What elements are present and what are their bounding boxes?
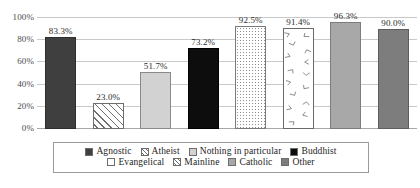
- legend-item-buddhist[interactable]: Buddhist: [290, 147, 336, 157]
- bar: [235, 26, 266, 129]
- legend-item-label: Nothing in particular: [200, 147, 282, 157]
- legend-row-1: AgnosticAtheistNothing in particularBudd…: [58, 147, 364, 157]
- legend-item-label: Buddhist: [301, 147, 336, 157]
- legend-item-other[interactable]: Other: [281, 158, 314, 168]
- bar-group-atheist: 23.0%: [93, 17, 124, 129]
- bar-value-label: 90.0%: [372, 18, 415, 28]
- bar: [188, 48, 219, 129]
- legend-item-agnostic[interactable]: Agnostic: [85, 147, 131, 157]
- bar-value-label: 96.3%: [324, 11, 367, 21]
- bar-value-label: 92.5%: [229, 15, 272, 25]
- legend-swatch-icon: [107, 158, 115, 166]
- y-tick-label: 40%: [17, 79, 34, 89]
- legend-item-nothing-in-particular[interactable]: Nothing in particular: [189, 147, 282, 157]
- bar: [93, 103, 124, 129]
- legend-item-label: Other: [292, 158, 314, 168]
- bar-value-label: 83.3%: [39, 26, 82, 36]
- legend-swatch-icon: [141, 148, 149, 156]
- bar: [330, 22, 361, 129]
- plot-area: 100% 80% 60% 40% 20% 0% 83.3%23.0%51.7%7…: [0, 0, 420, 136]
- legend-swatch-icon: [290, 148, 298, 156]
- bar-group-evangelical: 92.5%: [235, 17, 266, 129]
- bars-layer: 83.3%23.0%51.7%73.2%92.5%91.4%96.3%90.0%: [37, 0, 417, 136]
- bar: [283, 28, 314, 129]
- legend-swatch-icon: [85, 148, 93, 156]
- legend-item-catholic[interactable]: Catholic: [228, 158, 272, 168]
- legend-item-label: Mainline: [184, 158, 219, 168]
- legend: AgnosticAtheistNothing in particularBudd…: [53, 142, 369, 173]
- bar-chart: 100% 80% 60% 40% 20% 0% 83.3%23.0%51.7%7…: [0, 0, 420, 188]
- bar-value-label: 91.4%: [277, 17, 320, 27]
- y-tick-label: 80%: [17, 34, 34, 44]
- bar: [140, 72, 171, 129]
- bar-group-catholic: 96.3%: [330, 17, 361, 129]
- legend-item-label: Atheist: [152, 147, 180, 157]
- bar: [378, 29, 409, 129]
- legend-swatch-icon: [189, 148, 197, 156]
- legend-swatch-icon: [173, 158, 181, 166]
- legend-item-evangelical[interactable]: Evangelical: [107, 158, 164, 168]
- y-tick-label: 20%: [17, 101, 34, 111]
- y-axis: 100% 80% 60% 40% 20% 0%: [0, 0, 34, 136]
- legend-item-label: Catholic: [239, 158, 272, 168]
- legend-item-label: Agnostic: [96, 147, 131, 157]
- bar-group-other: 90.0%: [378, 17, 409, 129]
- bar-group-buddhist: 73.2%: [188, 17, 219, 129]
- bar-group-nothing-in-particular: 51.7%: [140, 17, 171, 129]
- legend-item-atheist[interactable]: Atheist: [141, 147, 180, 157]
- bar: [45, 37, 76, 129]
- y-tick-label: 100%: [13, 12, 34, 22]
- legend-swatch-icon: [228, 158, 236, 166]
- y-tick-label: 60%: [17, 56, 34, 66]
- bar-value-label: 51.7%: [134, 61, 177, 71]
- legend-item-label: Evangelical: [118, 158, 164, 168]
- bar-value-label: 73.2%: [182, 37, 225, 47]
- y-tick-label: 0%: [22, 123, 34, 133]
- legend-swatch-icon: [281, 158, 289, 166]
- bar-group-agnostic: 83.3%: [45, 17, 76, 129]
- bar-value-label: 23.0%: [87, 92, 130, 102]
- legend-row-2: EvangelicalMainlineCatholicOther: [58, 158, 364, 168]
- legend-item-mainline[interactable]: Mainline: [173, 158, 219, 168]
- bar-group-mainline: 91.4%: [283, 17, 314, 129]
